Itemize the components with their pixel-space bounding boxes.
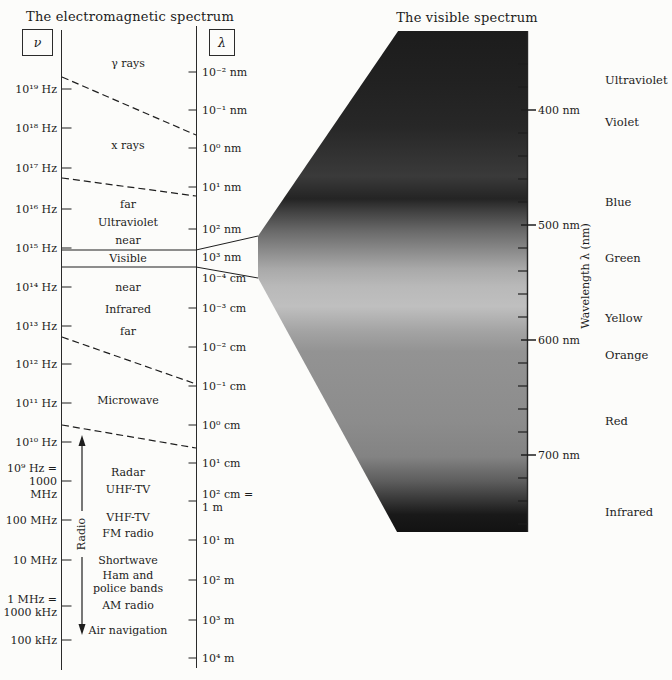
frequency-tick-label: 10⁹ Hz = 1000 MHz: [0, 462, 57, 501]
frequency-tick-label: 10¹⁴ Hz: [15, 281, 57, 294]
em-region-label: VHF-TV: [106, 511, 149, 524]
wavelength-tick-label: 10² nm: [202, 223, 241, 236]
wavelength-tick-label: 10⁰ nm: [202, 142, 241, 155]
frequency-tick-label: 10¹⁶ Hz: [15, 203, 57, 216]
em-region-label: FM radio: [102, 527, 153, 540]
visible-wavelength-axis-label: Wavelength λ (nm): [579, 223, 592, 328]
em-region-label: Radar: [111, 466, 145, 479]
wavelength-tick-label: 10⁰ cm: [202, 419, 241, 432]
visible-nm-tick-label: 600 nm: [538, 334, 580, 347]
frequency-tick-label: 10¹⁹ Hz: [15, 83, 57, 96]
frequency-tick-label: 10¹⁵ Hz: [15, 242, 57, 255]
frequency-tick-label: 10¹⁷ Hz: [15, 162, 57, 175]
spectrum-color-label: Ultraviolet: [605, 74, 668, 87]
wavelength-tick-label: 10⁻⁴ cm: [202, 272, 246, 285]
spectrum-color-label: Blue: [605, 196, 631, 209]
em-region-label: far: [120, 198, 136, 211]
wavelength-tick-label: 10⁻² cm: [202, 341, 246, 354]
wavelength-tick-label: 10¹ m: [202, 534, 234, 547]
wavelength-tick-label: 10³ nm: [202, 251, 241, 264]
wavelength-tick-label: 10⁴ m: [202, 652, 234, 665]
visible-nm-tick-label: 700 nm: [538, 449, 580, 462]
em-region-label: Infrared: [105, 303, 151, 316]
spectrum-color-label: Green: [605, 252, 641, 265]
wavelength-tick-label: 10³ m: [202, 614, 234, 627]
wavelength-tick-label: 10² cm = 1 m: [202, 488, 253, 514]
frequency-tick-label: 10¹³ Hz: [15, 320, 57, 333]
frequency-tick-label: 10¹¹ Hz: [15, 397, 57, 410]
wavelength-tick-label: 10⁻¹ cm: [202, 380, 246, 393]
em-region-label: Air navigation: [89, 624, 168, 637]
em-region-label: UHF-TV: [106, 483, 151, 496]
wavelength-tick-label: 10¹ cm: [202, 457, 241, 470]
frequency-tick-label: 10¹⁸ Hz: [15, 122, 57, 135]
em-region-label: near: [115, 281, 140, 294]
frequency-tick-label: 10¹⁰ Hz: [15, 436, 57, 449]
em-region-label: Visible: [109, 252, 147, 265]
em-region-label: AM radio: [102, 599, 154, 612]
visible-nm-tick-label: 500 nm: [538, 219, 580, 232]
frequency-tick-label: 100 kHz: [10, 634, 57, 647]
em-spectrum-figure: The electromagnetic spectrum The visible…: [0, 0, 672, 680]
frequency-tick-label: 100 MHz: [6, 514, 57, 527]
em-region-label: far: [120, 325, 136, 338]
visible-nm-tick-label: 400 nm: [538, 104, 580, 117]
spectrum-color-label: Orange: [605, 349, 648, 362]
spectrum-color-label: Yellow: [605, 312, 643, 325]
wavelength-tick-label: 10⁻¹ nm: [202, 104, 247, 117]
frequency-tick-label: 1 MHz = 1000 kHz: [3, 593, 57, 619]
wavelength-tick-label: 10¹ nm: [202, 181, 241, 194]
em-region-label: Ultraviolet: [98, 216, 158, 229]
wavelength-tick-label: 10⁻² nm: [202, 66, 247, 79]
wavelength-tick-label: 10² m: [202, 574, 234, 587]
em-region-label: Ham and police bands: [93, 569, 163, 595]
em-region-label: γ rays: [111, 57, 145, 70]
spectrum-color-label: Infrared: [605, 506, 653, 519]
wavelength-tick-label: 10⁻³ cm: [202, 302, 246, 315]
frequency-tick-label: 10¹² Hz: [15, 358, 57, 371]
radio-band-label: Radio: [75, 518, 88, 550]
spectrum-color-label: Red: [605, 415, 628, 428]
frequency-tick-label: 10 MHz: [13, 554, 57, 567]
em-region-label: near: [115, 234, 140, 247]
em-region-label: Microwave: [97, 394, 159, 407]
spectrum-color-label: Violet: [605, 116, 639, 129]
em-region-label: x rays: [111, 139, 144, 152]
em-region-label: Shortwave: [98, 554, 158, 567]
